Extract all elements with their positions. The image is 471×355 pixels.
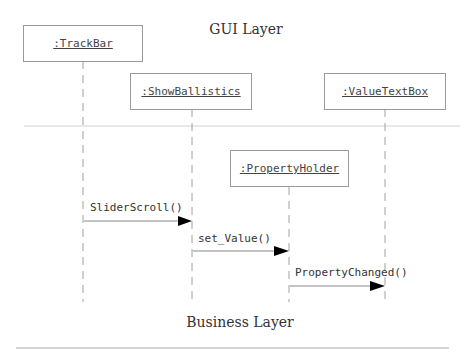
message-label-setvalue: set_Value(): [198, 232, 271, 245]
message-label-sliderscroll: SliderScroll(): [90, 201, 183, 214]
arrowhead-icon: [274, 246, 289, 256]
business-layer-title: Business Layer: [186, 314, 294, 330]
arrowhead-icon: [370, 281, 385, 291]
sequence-diagram: GUI Layer Business Layer :TrackBar :Show…: [0, 0, 471, 355]
object-trackbar: :TrackBar: [23, 25, 143, 62]
object-label: :ValueTextBox: [342, 85, 428, 98]
arrowhead-icon: [178, 216, 192, 226]
object-label: :ShowBallistics: [141, 85, 240, 98]
object-valuetextbox: :ValueTextBox: [324, 73, 446, 110]
gui-layer-title: GUI Layer: [209, 21, 283, 37]
object-label: :PropertyHolder: [240, 162, 339, 175]
message-label-propertychanged: PropertyChanged(): [295, 266, 408, 279]
object-showballistics: :ShowBallistics: [130, 73, 252, 110]
object-propertyholder: :PropertyHolder: [230, 150, 349, 187]
object-label: :TrackBar: [53, 37, 113, 50]
